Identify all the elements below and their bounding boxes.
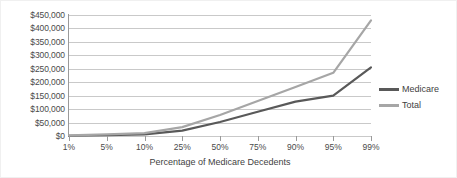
- y-tick-label: $450,000: [30, 10, 65, 20]
- y-tick-label: $400,000: [30, 23, 65, 33]
- legend-item-medicare[interactable]: Medicare: [379, 81, 455, 97]
- y-tick-label: $250,000: [30, 64, 65, 74]
- legend-item-total[interactable]: Total: [379, 97, 455, 113]
- chart-figure: $450,000$400,000$350,000$300,000$250,000…: [0, 0, 457, 178]
- y-tick-label: $0: [56, 131, 65, 141]
- x-tick-label: 90%: [287, 142, 304, 152]
- x-tick: [220, 136, 221, 141]
- series-line-medicare: [69, 67, 371, 135]
- legend-label: Total: [402, 100, 421, 110]
- x-tick-label: 99%: [362, 142, 379, 152]
- x-tick-label: 10%: [136, 142, 153, 152]
- legend-swatch-icon: [379, 88, 399, 91]
- series-line-total: [69, 20, 371, 135]
- y-tick-label: $300,000: [30, 50, 65, 60]
- series-lines: [69, 15, 371, 136]
- legend-label: Medicare: [402, 84, 439, 94]
- x-tick-label: 50%: [211, 142, 228, 152]
- y-tick-label: $50,000: [35, 118, 65, 128]
- x-tick: [145, 136, 146, 141]
- x-tick-label: 5%: [101, 142, 113, 152]
- chart-legend: MedicareTotal: [379, 81, 455, 113]
- x-tick: [69, 136, 70, 141]
- y-tick-label: $100,000: [30, 104, 65, 114]
- x-axis: 1%5%10%25%50%75%90%95%99%: [69, 142, 371, 154]
- x-tick: [296, 136, 297, 141]
- y-axis: $450,000$400,000$350,000$300,000$250,000…: [1, 1, 65, 178]
- x-tick-label: 25%: [174, 142, 191, 152]
- x-axis-ticks: [69, 136, 371, 141]
- x-tick-label: 75%: [249, 142, 266, 152]
- legend-swatch-icon: [379, 104, 399, 107]
- x-tick-label: 95%: [325, 142, 342, 152]
- x-tick-label: 1%: [63, 142, 75, 152]
- y-tick-label: $200,000: [30, 77, 65, 87]
- x-tick: [107, 136, 108, 141]
- x-tick: [258, 136, 259, 141]
- x-axis-title: Percentage of Medicare Decedents: [69, 157, 371, 167]
- y-tick-label: $150,000: [30, 91, 65, 101]
- y-tick-label: $350,000: [30, 37, 65, 47]
- x-tick: [333, 136, 334, 141]
- x-tick: [371, 136, 372, 141]
- plot-area: [69, 15, 371, 136]
- x-tick: [182, 136, 183, 141]
